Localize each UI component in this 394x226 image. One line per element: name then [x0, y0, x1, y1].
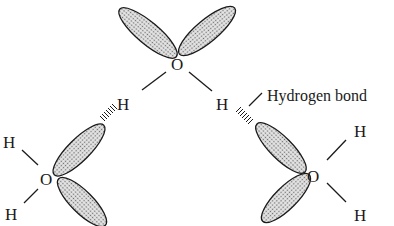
covalent-bond	[327, 140, 346, 160]
hydrogen-atom-left-lower: H	[5, 205, 17, 224]
covalent-bond	[22, 150, 38, 165]
lone-pair-lobe-icon	[46, 117, 111, 182]
diagram-canvas: O H H Hydrogen bond O	[0, 0, 394, 226]
top-water-molecule: O H H	[113, 0, 242, 114]
lone-pair-lobe-icon	[249, 116, 313, 180]
lone-pair-lobe-icon	[172, 0, 241, 63]
covalent-bond	[189, 72, 212, 91]
covalent-bond	[327, 183, 346, 202]
oxygen-atom-top: O	[171, 55, 183, 74]
hydrogen-atom-left-upper: H	[3, 133, 15, 152]
hydrogen-bond-label: Hydrogen bond	[267, 87, 367, 105]
hydrogen-bond-hatch-left	[100, 104, 117, 121]
covalent-bond	[142, 72, 166, 90]
lone-pair-lobe-icon	[51, 171, 113, 226]
oxygen-atom-right: O	[307, 167, 319, 186]
hydrogen-atom-right-lower: H	[354, 206, 366, 225]
water-hydrogen-bond-diagram: O H H Hydrogen bond O	[0, 0, 394, 226]
right-water-molecule: O H H	[249, 116, 366, 226]
hydrogen-bond-hatch-right	[236, 107, 253, 124]
hydrogen-bond-callout: Hydrogen bond	[249, 87, 367, 106]
callout-leader-line	[249, 93, 262, 106]
hydrogen-atom-top-right: H	[216, 95, 228, 114]
left-water-molecule: O H H	[3, 117, 113, 226]
covalent-bond	[24, 189, 38, 203]
hydrogen-atom-top-left: H	[117, 95, 129, 114]
oxygen-atom-left: O	[40, 170, 52, 189]
hydrogen-atom-right-upper: H	[354, 122, 366, 141]
